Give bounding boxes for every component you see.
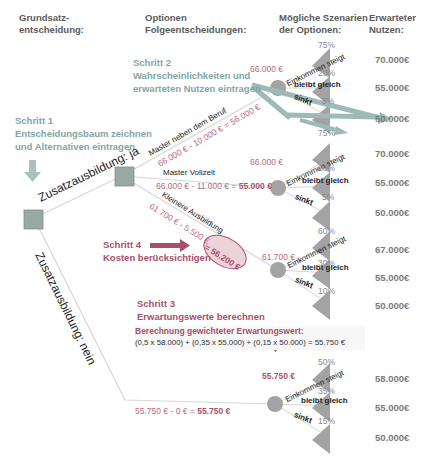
s3-p-same: 30%	[318, 258, 335, 268]
s3-p-down: 10%	[318, 286, 335, 296]
step2-note: Schritt 2 Wahrscheinlichkeiten und erwar…	[133, 56, 261, 95]
s4-p-same: 35%	[318, 386, 335, 396]
s1-u-up: 70.000€	[375, 54, 409, 65]
s2-p-same: 20%	[318, 163, 335, 173]
step2-line2: erwarteten Nutzen eintragen	[133, 82, 261, 95]
s4-u-up: 58.000€	[375, 373, 409, 384]
s2-p-down: 5%	[322, 192, 334, 202]
s4-p-up: 50%	[318, 357, 335, 367]
option2-calc: 66.000 € - 11.000 € = 55.000 €	[156, 181, 272, 191]
step4-line1: Kosten berücksichtigen	[103, 251, 211, 264]
s2-u-same: 55.000€	[375, 177, 409, 188]
header-optionen: Optionen Folgeentscheidungen:	[145, 12, 246, 36]
s4-u-down: 50.000€	[375, 432, 409, 443]
header-nutzen: Erwarteter Nutzen:	[369, 12, 416, 36]
step1-title: Schritt 1	[15, 114, 152, 127]
s1-u-same: 55.000€	[375, 82, 409, 93]
s3-u-same: 55.000€	[375, 272, 409, 283]
header-szenarien: Mögliche Szenarien der Optionen:	[279, 12, 368, 36]
step1-line1: Entscheidungsbaum zeichnen	[15, 127, 152, 140]
s1-p-down: 5%	[322, 96, 334, 106]
header-optionen-line1: Optionen	[145, 12, 246, 24]
header-szenarien-line2: der Optionen:	[279, 24, 368, 36]
header-nutzen-line2: Nutzen:	[369, 24, 416, 36]
step3-line1: Erwartungswerte berechnen	[137, 310, 265, 323]
s4-same-label: bleibt gleich	[301, 396, 348, 405]
step3-title: Schritt 3	[137, 297, 265, 310]
node4-value: 55.750 €	[262, 371, 295, 381]
step4-title: Schritt 4	[103, 238, 211, 251]
s2-same-label: bleibt gleich	[302, 176, 349, 185]
s1-u-down: 50.000€	[375, 113, 409, 124]
option4-calc-result: 55.750 €	[197, 406, 230, 416]
step2-title: Schritt 2	[133, 56, 261, 69]
header-grundsatz-line1: Grundsatz-	[19, 12, 84, 24]
step3-note: Schritt 3 Erwartungswerte berechnen	[137, 297, 265, 323]
formula-title: Berechnung gewichteter Erwartungswert:	[135, 326, 365, 337]
header-grundsatz: Grundsatz- entscheidung:	[19, 12, 84, 36]
s4-p-down: 15%	[318, 416, 335, 426]
s3-u-down: 50.000€	[375, 300, 409, 311]
node1-value: 66.000 €	[250, 64, 283, 74]
node2-value: 66.000 €	[250, 157, 283, 167]
s3-p-up: 60%	[318, 226, 335, 236]
option2-calc-result: 55.000 €	[239, 181, 272, 191]
formula-expression: (0,5 x 58.000) + (0,35 x 55.000) + (0,15…	[135, 337, 365, 348]
s1-same-label: bleibt gleich	[294, 80, 341, 89]
s4-u-same: 55.000€	[375, 402, 409, 413]
option2-calc-prefix: 66.000 € - 11.000 € =	[156, 181, 239, 191]
header-grundsatz-line2: entscheidung:	[19, 24, 84, 36]
s3-u-up: 67.000€	[375, 244, 409, 255]
step2-line1: Wahrscheinlichkeiten und	[133, 69, 261, 82]
s1-p-up: 75%	[318, 40, 335, 50]
option2-label: Master Vollzeit	[163, 168, 215, 177]
step4-note: Schritt 4 Kosten berücksichtigen	[103, 238, 211, 264]
formula-box: Berechnung gewichteter Erwartungswert: (…	[135, 326, 365, 350]
option4-calc-prefix: 55.750 € - 0 € =	[135, 406, 197, 416]
s2-p-up: 75%	[318, 128, 335, 138]
s1-p-same: 20%	[318, 68, 335, 78]
header-szenarien-line1: Mögliche Szenarien	[279, 12, 368, 24]
s2-u-up: 70.000€	[375, 148, 409, 159]
option4-calc: 55.750 € - 0 € = 55.750 €	[135, 406, 230, 416]
header-optionen-line2: Folgeentscheidungen:	[145, 24, 246, 36]
header-nutzen-line1: Erwarteter	[369, 12, 416, 24]
s2-u-down: 50.000€	[375, 207, 409, 218]
